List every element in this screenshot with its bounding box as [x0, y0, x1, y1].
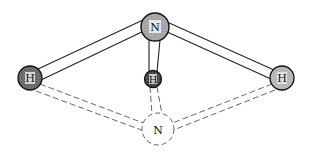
solid-bond-ntop-hright-upper — [167, 22, 274, 70]
atom-h-right: H — [270, 66, 294, 90]
ammonia-inversion-diagram: N H H H N — [0, 0, 311, 153]
solid-bond-ntop-hright-lower — [165, 31, 271, 79]
atom-n-bottom: N — [142, 113, 174, 145]
atom-h-left: H — [18, 66, 42, 90]
solid-bond-ntop-hleft-upper — [38, 20, 143, 69]
atom-label-n-top: N — [150, 21, 160, 34]
solid-bond-ntop-hleft-lower — [41, 30, 146, 80]
atom-h-middle: H — [145, 71, 162, 88]
atom-label-h-right: H — [277, 72, 287, 85]
dashed-bond-nbottom-hright-lower — [171, 90, 275, 131]
dashed-bond-nbottom-hright-upper — [170, 84, 272, 124]
solid-bond-ntop-hmiddle-right — [157, 40, 160, 72]
atom-n-top: N — [141, 13, 169, 41]
atom-label-n-bottom: N — [153, 124, 163, 137]
dashed-bond-nbottom-hmiddle-left — [150, 87, 152, 114]
atom-label-h-middle: H — [149, 74, 158, 85]
dashed-bond-nbottom-hleft-upper — [40, 84, 146, 124]
dashed-bond-nbottom-hleft-lower — [36, 91, 144, 131]
dashed-bond-nbottom-hmiddle-right — [157, 87, 162, 114]
atom-label-h-left: H — [25, 72, 35, 85]
